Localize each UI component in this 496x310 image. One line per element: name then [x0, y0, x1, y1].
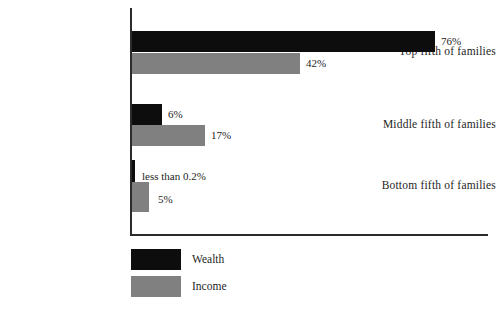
value-label-top-income: 42% [306, 58, 326, 69]
bar-bottom-income [132, 182, 149, 212]
bar-bottom-wealth [132, 160, 135, 182]
category-label-middle: Middle fifth of families [374, 119, 496, 131]
bar-top-wealth [132, 31, 435, 52]
category-label-bottom: Bottom fifth of families [374, 180, 496, 192]
bar-middle-income [132, 125, 205, 146]
value-label-bottom-wealth: less than 0.2% [142, 171, 206, 182]
value-label-bottom-income: 5% [158, 194, 173, 205]
value-label-middle-income: 17% [211, 130, 231, 141]
bar-top-income [132, 53, 300, 74]
x-axis-line [130, 234, 488, 236]
legend-swatch-income [131, 276, 181, 297]
legend-label-income: Income [192, 281, 226, 293]
value-label-middle-wealth: 6% [168, 109, 183, 120]
bar-chart: Top fifth of families Middle fifth of fa… [0, 0, 496, 310]
value-label-top-wealth: 76% [441, 36, 461, 47]
bar-middle-wealth [132, 104, 162, 125]
legend-swatch-wealth [131, 249, 181, 270]
legend-label-wealth: Wealth [192, 254, 224, 266]
